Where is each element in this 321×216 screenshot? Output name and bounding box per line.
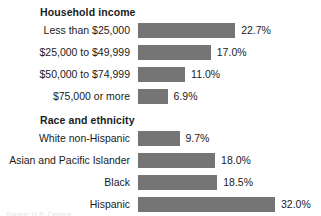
bar-track: 11.0% (138, 67, 321, 82)
bar-chart-figure: Household income Less than $25,00022.7%$… (0, 0, 321, 216)
bar (138, 45, 211, 60)
bar-row: $25,000 to $49,99917.0% (0, 43, 321, 65)
bar-category-label: White non-Hispanic (0, 132, 134, 144)
bar-row: $50,000 to $74,99911.0% (0, 65, 321, 87)
bar (138, 23, 235, 38)
bar-track: 18.0% (138, 153, 321, 168)
bar-category-label: Asian and Pacific Islander (0, 154, 134, 166)
bar-track: 18.5% (138, 175, 321, 190)
bar-category-label: Black (0, 176, 134, 188)
bar-row: Less than $25,00022.7% (0, 21, 321, 43)
bar (138, 153, 215, 168)
bar (138, 67, 185, 82)
section-title-household-income: Household income (40, 6, 136, 18)
bar-category-label: $25,000 to $49,999 (0, 46, 134, 58)
bar (138, 175, 217, 190)
bar-row: White non-Hispanic9.7% (0, 129, 321, 151)
bar-track: 22.7% (138, 23, 321, 38)
bar-value-label: 11.0% (191, 68, 220, 80)
bar-track: 32.0% (138, 197, 321, 212)
bar-value-label: 17.0% (217, 46, 247, 58)
bar-track: 6.9% (138, 89, 321, 104)
bar (138, 131, 180, 146)
bar-value-label: 22.7% (241, 24, 271, 36)
bar-track: 9.7% (138, 131, 321, 146)
bar-value-label: 18.0% (221, 154, 251, 166)
bar-value-label: 9.7% (186, 132, 210, 144)
bar-category-label: $75,000 or more (0, 90, 134, 102)
bar-category-label: $50,000 to $74,999 (0, 68, 134, 80)
bar-category-label: Less than $25,000 (0, 24, 134, 36)
bar-value-label: 6.9% (174, 90, 198, 102)
bar-rows-race-and-ethnicity: White non-Hispanic9.7%Asian and Pacific … (0, 129, 321, 216)
section-title-race-and-ethnicity: Race and ethnicity (40, 114, 135, 126)
bar-value-label: 32.0% (281, 198, 311, 210)
bar (138, 197, 275, 212)
bar-value-label: 18.5% (223, 176, 253, 188)
bar (138, 89, 168, 104)
source-footnote: Source: U.S. Census (6, 211, 71, 216)
bar-rows-household-income: Less than $25,00022.7%$25,000 to $49,999… (0, 21, 321, 109)
bar-row: Asian and Pacific Islander18.0% (0, 151, 321, 173)
bar-row: Black18.5% (0, 173, 321, 195)
bar-category-label: Hispanic (0, 198, 134, 210)
bar-row: $75,000 or more6.9% (0, 87, 321, 109)
bar-track: 17.0% (138, 45, 321, 60)
